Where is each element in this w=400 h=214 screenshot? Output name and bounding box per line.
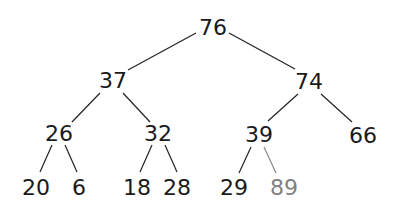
edge-39-89 [264,147,276,173]
node-right-left: 39 [245,122,273,147]
node-right: 74 [295,69,323,94]
node-leaf-29: 29 [220,175,248,200]
edge-76-74 [229,33,295,69]
edge-76-37 [128,33,196,70]
edge-26-20 [40,145,52,172]
edge-74-66 [321,94,352,122]
edges-group [40,33,352,173]
node-leaf-89-highlighted: 89 [270,175,298,200]
edge-26-6 [65,145,77,172]
edge-37-32 [123,93,150,122]
edge-32-18 [140,145,152,172]
node-left: 37 [99,68,127,93]
tree-svg: 76 37 74 26 32 39 66 20 6 18 28 29 89 [0,0,400,214]
node-left-right: 32 [144,121,172,146]
node-leaf-6: 6 [72,175,86,200]
edge-32-28 [165,145,177,172]
edge-74-39 [268,94,298,121]
node-right-right: 66 [349,123,377,148]
tree-diagram: 76 37 74 26 32 39 66 20 6 18 28 29 89 [0,0,400,214]
node-leaf-20: 20 [22,175,50,200]
edge-39-29 [239,147,251,173]
edge-37-26 [72,93,100,122]
node-root: 76 [199,15,227,40]
node-leaf-28: 28 [163,175,191,200]
node-leaf-18: 18 [123,175,151,200]
node-left-left: 26 [45,121,73,146]
nodes-group: 76 37 74 26 32 39 66 20 6 18 28 29 89 [22,15,377,200]
